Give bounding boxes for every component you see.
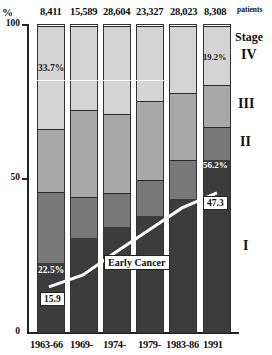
segment-stage-ii [104, 193, 130, 227]
bar-1974 [103, 24, 131, 333]
segment-stage-ii [137, 180, 163, 216]
bar-1969 [70, 24, 98, 333]
y-label-0: 0 [0, 326, 20, 336]
x-label-1979: 1979- [138, 339, 161, 350]
patient-count-1979: 23,327 [136, 6, 163, 17]
x-label-1969: 1969- [70, 339, 93, 350]
patient-count-1991: 8,308 [204, 6, 226, 17]
segment-stage-iv [71, 26, 97, 110]
legend-stage-iii: III [238, 96, 254, 112]
y-label-100: 100 [0, 18, 20, 28]
segment-stage-ii [204, 127, 230, 160]
segment-stage-i [137, 216, 163, 332]
segment-stage-iv [38, 26, 64, 129]
segment-stage-iii [38, 129, 64, 192]
annotation-15-9: 15.9 [40, 292, 65, 306]
x-label-1963-66: 1963-66 [30, 339, 63, 350]
segment-stage-iv [104, 26, 130, 114]
y-tick-100 [22, 24, 28, 26]
y-axis-unit: % [2, 6, 13, 18]
y-tick-50 [22, 178, 28, 180]
segment-stage-iii [71, 110, 97, 197]
x-label-1983-86: 1983-86 [166, 339, 199, 350]
legend-title-stage: Stage [235, 30, 263, 45]
segment-stage-iv [137, 26, 163, 101]
segment-stage-iii [137, 101, 163, 179]
segment-stage-i [170, 199, 196, 332]
annotation-47-3: 47.3 [203, 196, 228, 210]
segment-stage-iii [204, 85, 230, 127]
segment-stage-i [104, 227, 130, 332]
annotation-56-2: 56.2% [203, 160, 228, 170]
annotation-19-2: 19.2% [203, 52, 226, 62]
bar-1979 [136, 24, 164, 333]
bar-1991 [203, 24, 231, 333]
segment-stage-iv [170, 26, 196, 93]
segment-stage-ii [71, 197, 97, 238]
bar-1983-86 [169, 24, 197, 333]
legend-stage-iv: IV [241, 47, 257, 63]
segment-stage-i [204, 160, 230, 332]
early-cancer-label: Early Cancer [104, 255, 170, 270]
annotation-33-7: 33.7% [38, 63, 64, 73]
segment-stage-ii [170, 160, 196, 199]
patient-count-1983-86: 28,023 [170, 6, 197, 17]
x-label-1991: 1991 [203, 339, 223, 350]
y-label-50: 50 [0, 172, 20, 182]
segment-stage-ii [38, 192, 64, 263]
legend-stage-i: I [243, 238, 248, 254]
annotation-22-5: 22.5% [38, 265, 64, 275]
legend-stage-ii: II [240, 134, 251, 150]
segment-stage-iii [170, 93, 196, 159]
patients-label: patients [237, 5, 262, 14]
x-label-1974: 1974- [103, 339, 126, 350]
patient-count-1974: 28,604 [103, 6, 130, 17]
patient-count-1969: 15,589 [70, 6, 97, 17]
scan-artifact-line [37, 80, 164, 81]
patient-count-1963-66: 8,411 [40, 6, 62, 17]
segment-stage-iii [104, 114, 130, 193]
segment-stage-i [71, 238, 97, 332]
